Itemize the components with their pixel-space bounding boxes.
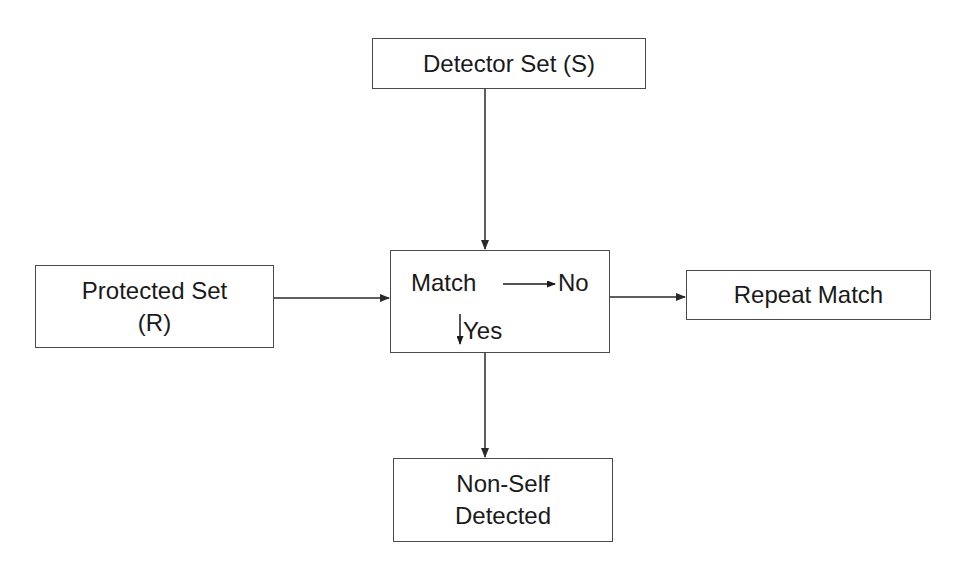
repeat-match-label: Repeat Match	[734, 279, 883, 311]
protected-set-node: Protected Set (R)	[35, 265, 274, 348]
non-self-detected-node: Non-Self Detected	[393, 458, 613, 542]
repeat-match-node: Repeat Match	[686, 270, 931, 320]
match-decision-node: Match No Yes	[390, 250, 610, 353]
detector-set-node: Detector Set (S)	[372, 38, 646, 89]
detector-set-label: Detector Set (S)	[423, 48, 595, 80]
non-self-label-line2: Detected	[455, 500, 551, 532]
yes-label: Yes	[463, 317, 502, 345]
non-self-label-line1: Non-Self	[456, 468, 549, 500]
no-label: No	[558, 269, 589, 297]
protected-set-label-line2: (R)	[138, 307, 171, 339]
protected-set-label-line1: Protected Set	[82, 275, 227, 307]
